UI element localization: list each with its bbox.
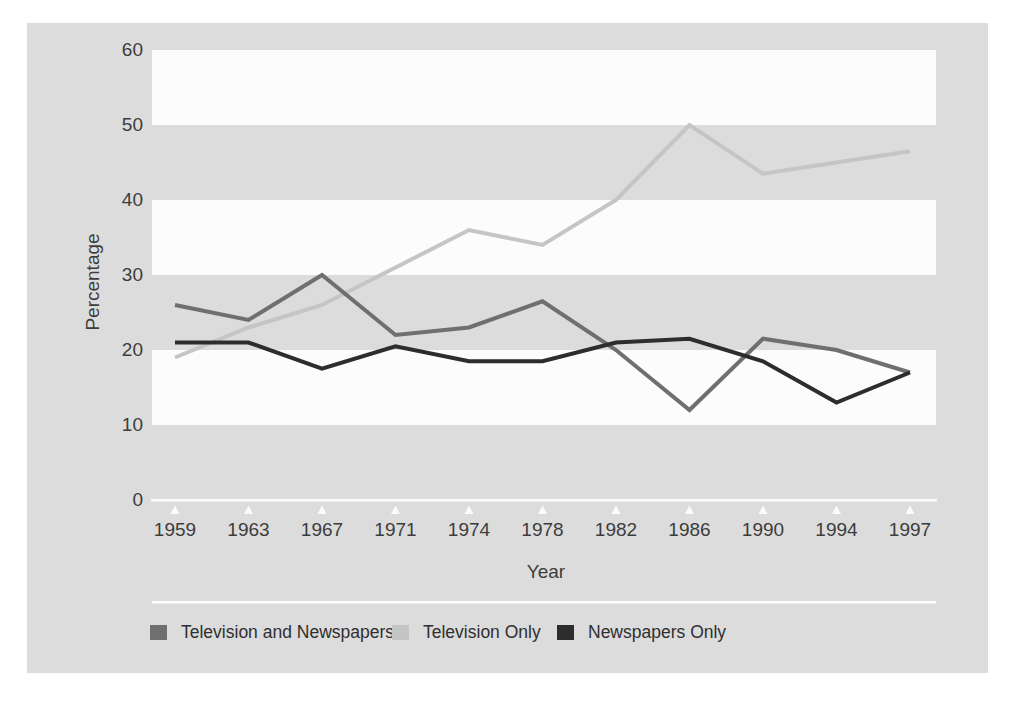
x-tick-label: 1967 (285, 519, 359, 541)
x-tick-marker (538, 506, 547, 515)
y-tick-label: 0 (59, 489, 143, 511)
x-tick-marker (832, 506, 841, 515)
x-tick-label: 1997 (873, 519, 947, 541)
x-tick-label: 1971 (359, 519, 433, 541)
legend-swatch-icon (557, 625, 574, 640)
legend-label: Television and Newspapers (181, 622, 394, 642)
legend-item-television-only: Television Only (392, 622, 541, 642)
y-tick-label: 50 (59, 114, 143, 136)
x-tick-marker (244, 506, 253, 515)
legend-label: Television Only (423, 622, 541, 642)
x-tick-label: 1978 (506, 519, 580, 541)
x-tick-label: 1963 (212, 519, 286, 541)
x-tick-marker (685, 506, 694, 515)
y-tick-label: 60 (59, 39, 143, 61)
x-tick-marker (759, 506, 768, 515)
x-axis-title: Year (496, 561, 596, 583)
y-tick-label: 40 (59, 189, 143, 211)
line-chart (0, 0, 1020, 705)
x-tick-label: 1959 (138, 519, 212, 541)
x-axis-line (151, 499, 937, 502)
x-tick-marker (171, 506, 180, 515)
legend-label: Newspapers Only (588, 622, 726, 642)
legend-swatch-icon (150, 625, 167, 640)
x-tick-marker (391, 506, 400, 515)
x-tick-label: 1986 (653, 519, 727, 541)
legend-separator-line (152, 601, 936, 604)
plot-band (152, 200, 936, 275)
x-tick-label: 1990 (726, 519, 800, 541)
legend-swatch-icon (392, 625, 409, 640)
x-tick-marker (906, 506, 915, 515)
y-tick-label: 10 (59, 414, 143, 436)
x-tick-label: 1974 (432, 519, 506, 541)
y-axis-title: Percentage (82, 222, 104, 342)
chart-page: 6050403020100 19591963196719711974197819… (0, 0, 1020, 705)
x-tick-marker (612, 506, 621, 515)
legend-item-newspapers-only: Newspapers Only (557, 622, 726, 642)
plot-band (152, 50, 936, 125)
x-tick-marker (465, 506, 474, 515)
x-tick-label: 1994 (800, 519, 874, 541)
x-tick-marker (318, 506, 327, 515)
legend-item-television-and-newspapers: Television and Newspapers (150, 622, 394, 642)
x-tick-label: 1982 (579, 519, 653, 541)
y-tick-label: 20 (59, 339, 143, 361)
